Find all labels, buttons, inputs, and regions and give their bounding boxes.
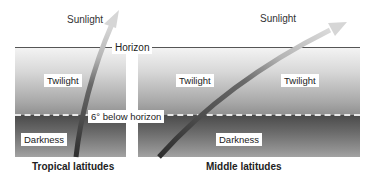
horizon-label: Horizon — [112, 41, 152, 54]
six-degree-label: 6° below horizon — [88, 110, 164, 123]
darkness-label-tropical: Darkness — [21, 133, 67, 146]
sun-path-arrow-tropical-icon — [76, 10, 119, 157]
twilight-label-midlatitude-1: Twilight — [176, 74, 214, 87]
caption-midlatitude: Middle latitudes — [206, 161, 282, 172]
twilight-label-tropical: Twilight — [44, 74, 82, 87]
sunlight-label-tropical: Sunlight — [67, 14, 103, 25]
darkness-label-midlatitude: Darkness — [216, 133, 262, 146]
twilight-label-midlatitude-2: Twilight — [281, 74, 319, 87]
caption-tropical: Tropical latitudes — [32, 161, 114, 172]
sunlight-label-midlatitude: Sunlight — [260, 13, 296, 24]
sun-path-arrows — [0, 0, 375, 180]
